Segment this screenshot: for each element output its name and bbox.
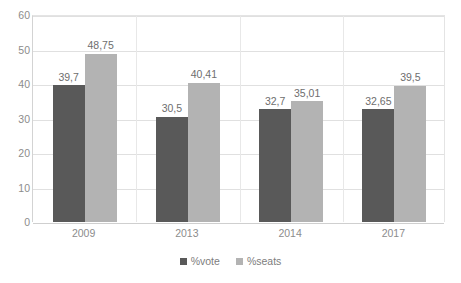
bar-value-label: 48,75 xyxy=(79,40,123,51)
bar-vote-2014[interactable] xyxy=(259,109,291,222)
legend-swatch-icon xyxy=(180,258,187,265)
x-axis: 2009201320142017 xyxy=(32,228,445,244)
legend-label: %seats xyxy=(247,256,281,267)
x-axis-tick-2014: 2014 xyxy=(278,228,301,239)
chart-legend: %vote%seats xyxy=(0,256,461,267)
bar-seats-2013[interactable] xyxy=(188,83,220,222)
legend-item-seats[interactable]: %seats xyxy=(236,256,281,267)
plot-area: 39,748,7530,540,4132,735,0132,6539,5 xyxy=(32,15,445,222)
x-axis-tick-2013: 2013 xyxy=(175,228,198,239)
bar-group: 32,6539,5 xyxy=(343,16,446,222)
bar-value-label: 40,41 xyxy=(182,69,226,80)
bar-value-label: 35,01 xyxy=(285,88,329,99)
bar-vote-2013[interactable] xyxy=(156,117,188,222)
x-axis-tick-2017: 2017 xyxy=(382,228,405,239)
x-axis-tick-2009: 2009 xyxy=(72,228,95,239)
y-axis-tick-40: 40 xyxy=(4,79,30,90)
y-axis-tick-50: 50 xyxy=(4,44,30,55)
y-axis: 0102030405060 xyxy=(0,15,30,222)
bar-group: 39,748,75 xyxy=(33,16,136,222)
bar-vote-2017[interactable] xyxy=(362,109,394,222)
bar-chart: 0102030405060 39,748,7530,540,4132,735,0… xyxy=(0,0,461,283)
y-axis-tick-10: 10 xyxy=(4,182,30,193)
y-axis-tick-30: 30 xyxy=(4,113,30,124)
legend-item-vote[interactable]: %vote xyxy=(180,256,220,267)
bar-seats-2009[interactable] xyxy=(85,54,117,222)
y-axis-tick-60: 60 xyxy=(4,10,30,21)
y-axis-tick-0: 0 xyxy=(4,217,30,228)
legend-label: %vote xyxy=(191,256,220,267)
bar-value-label: 39,5 xyxy=(388,72,432,83)
bar-seats-2014[interactable] xyxy=(291,101,323,222)
bar-group: 32,735,01 xyxy=(240,16,343,222)
bar-vote-2009[interactable] xyxy=(53,85,85,222)
y-axis-tick-20: 20 xyxy=(4,148,30,159)
legend-swatch-icon xyxy=(236,258,243,265)
gridline-0 xyxy=(33,223,444,224)
bar-group: 30,540,41 xyxy=(136,16,239,222)
bar-seats-2017[interactable] xyxy=(394,86,426,222)
